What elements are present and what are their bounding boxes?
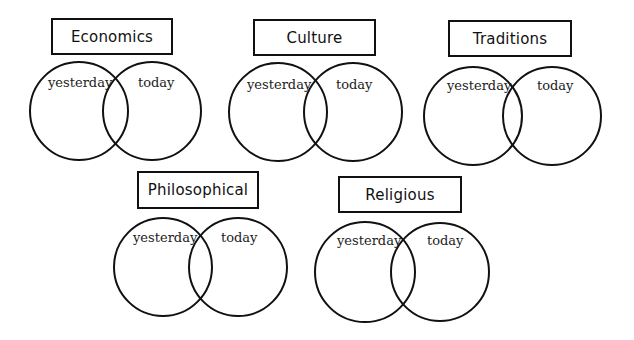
traditions-title-box: Traditions <box>448 20 572 57</box>
philosophical-yesterday-label: yesterday <box>133 231 197 244</box>
religious-yesterday-label: yesterday <box>337 234 401 247</box>
traditions-yesterday-label: yesterday <box>447 79 511 92</box>
religious-title-box: Religious <box>338 176 462 213</box>
philosophical-today-label: today <box>221 231 257 244</box>
culture-yesterday-label: yesterday <box>247 78 311 91</box>
economics-title-box: Economics <box>51 18 173 55</box>
philosophical-title-box: Philosophical <box>137 171 259 209</box>
traditions-today-label: today <box>537 79 573 92</box>
economics-yesterday-label: yesterday <box>48 76 112 89</box>
religious-title: Religious <box>365 186 434 204</box>
traditions-title: Traditions <box>473 30 548 48</box>
philosophical-title: Philosophical <box>148 181 248 199</box>
economics-title: Economics <box>71 28 153 46</box>
culture-title-box: Culture <box>253 19 376 56</box>
culture-today-label: today <box>336 78 372 91</box>
religious-today-label: today <box>427 234 463 247</box>
culture-title: Culture <box>286 29 342 47</box>
economics-today-label: today <box>138 76 174 89</box>
venn-diagram-worksheet: Economics yesterday today Culture yester… <box>0 0 634 340</box>
